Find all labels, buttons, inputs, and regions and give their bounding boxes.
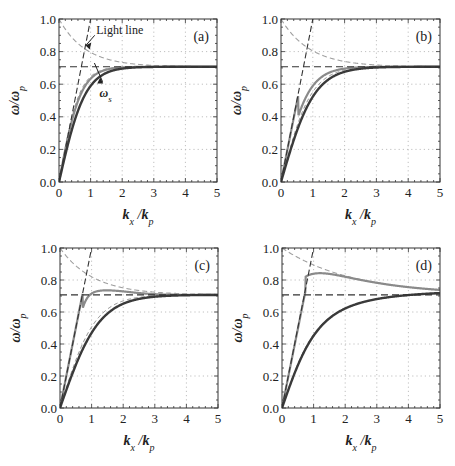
x-tick-label: 3	[374, 411, 381, 426]
panel-a: 0123450.00.20.40.60.81.0kx /kpω/ωp(a)Lig…	[7, 11, 220, 227]
panel-d: 0123450.00.20.40.60.81.0kx /kpω/ωp(d)	[230, 240, 443, 453]
x-axis-label: kx /kp	[346, 433, 377, 453]
x-tick-label: 0	[57, 411, 64, 426]
gray-solid-curve	[59, 67, 217, 182]
panel-b: 0123450.00.20.40.60.81.0kx /kpω/ωp(b)	[229, 11, 443, 227]
x-tick-label: 4	[183, 411, 190, 426]
x-axis-label: kx /kp	[123, 207, 154, 227]
x-tick-label: 4	[405, 185, 412, 200]
x-tick-label: 4	[405, 411, 412, 426]
panel-label: (d)	[416, 258, 433, 274]
y-tick-label: 0.6	[40, 77, 57, 92]
y-tick-label: 0.0	[41, 401, 57, 416]
x-tick-label: 5	[214, 185, 221, 200]
y-tick-label: 1.0	[40, 12, 56, 27]
y-tick-label: 0.2	[41, 369, 57, 384]
thin-dashed-curve	[60, 295, 218, 408]
x-tick-label: 2	[120, 411, 127, 426]
y-tick-label: 0.0	[263, 401, 279, 416]
y-tick-label: 0.2	[263, 369, 279, 384]
panel-label: (a)	[193, 29, 209, 45]
panel-c: 0123450.00.20.40.60.81.0kx /kpω/ωp(c)	[8, 240, 221, 453]
x-tick-label: 3	[151, 185, 158, 200]
y-tick-label: 1.0	[262, 12, 278, 27]
y-tick-label: 0.8	[262, 44, 278, 59]
y-axis-label: ω/ωp	[229, 86, 249, 115]
y-axis-label: ω/ωp	[230, 313, 250, 342]
panel-label: (b)	[416, 29, 433, 45]
light-line-annotation: Light line	[96, 23, 143, 37]
x-tick-label: 1	[88, 411, 95, 426]
x-tick-label: 1	[310, 411, 317, 426]
x-tick-label: 3	[373, 185, 380, 200]
x-tick-label: 1	[310, 185, 317, 200]
x-tick-label: 2	[341, 185, 348, 200]
y-tick-label: 0.8	[41, 273, 57, 288]
y-tick-label: 0.2	[40, 142, 56, 157]
panel-label: (c)	[194, 258, 210, 274]
y-axis-label: ω/ωp	[8, 313, 28, 342]
y-tick-label: 0.8	[263, 273, 279, 288]
x-tick-label: 3	[152, 411, 159, 426]
dark-solid-curve	[59, 67, 217, 182]
y-tick-label: 0.4	[262, 109, 279, 124]
y-tick-label: 0.4	[40, 109, 57, 124]
y-tick-label: 0.6	[262, 77, 279, 92]
y-tick-label: 0.8	[40, 44, 56, 59]
thin-dashed-curve	[59, 67, 217, 182]
y-tick-label: 0.4	[41, 337, 58, 352]
dark-solid-curve	[60, 295, 218, 408]
y-tick-label: 1.0	[41, 241, 57, 256]
x-axis-label: kx /kp	[124, 433, 155, 453]
x-tick-label: 0	[278, 185, 285, 200]
dark-solid-curve	[282, 293, 440, 408]
y-axis-label: ω/ωp	[7, 86, 27, 115]
x-tick-label: 4	[182, 185, 189, 200]
y-tick-label: 1.0	[263, 241, 279, 256]
y-tick-label: 0.2	[262, 142, 278, 157]
x-tick-label: 5	[215, 411, 222, 426]
x-tick-label: 0	[279, 411, 286, 426]
y-tick-label: 0.6	[263, 305, 280, 320]
x-tick-label: 5	[437, 185, 444, 200]
x-tick-label: 0	[56, 185, 63, 200]
x-axis-label: kx /kp	[345, 207, 376, 227]
x-tick-label: 5	[437, 411, 444, 426]
omega-s-annotation: ωs	[99, 86, 112, 104]
x-tick-label: 2	[342, 411, 349, 426]
y-tick-label: 0.4	[263, 337, 280, 352]
x-tick-label: 1	[87, 185, 94, 200]
x-tick-label: 2	[119, 185, 126, 200]
y-tick-label: 0.0	[40, 175, 56, 190]
figure: 0123450.00.20.40.60.81.0kx /kpω/ωp(a)Lig…	[0, 0, 455, 466]
y-tick-label: 0.6	[41, 305, 58, 320]
y-tick-label: 0.0	[262, 175, 278, 190]
